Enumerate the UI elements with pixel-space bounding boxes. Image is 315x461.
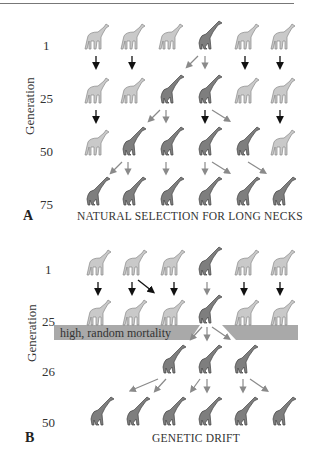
mortality-label: high, random mortality xyxy=(60,326,171,341)
gen-label-b-1: 1 xyxy=(45,262,52,278)
giraffe-short-neck-icon xyxy=(271,24,295,49)
panel-a-diagram xyxy=(0,0,315,210)
giraffe-long-neck-icon xyxy=(199,21,222,49)
axis-label-generation-b: Generation xyxy=(24,304,40,362)
gen-label-b-25: 25 xyxy=(42,314,55,330)
panel-label-b: B xyxy=(25,430,34,446)
giraffe-short-neck-icon xyxy=(235,24,259,49)
giraffe-short-neck-icon xyxy=(85,24,109,49)
caption-genetic-drift: GENETIC DRIFT xyxy=(152,432,240,444)
gen-label-b-50: 50 xyxy=(42,415,55,431)
gen-label-b-26: 26 xyxy=(42,364,55,380)
giraffe-short-neck-icon xyxy=(121,24,145,49)
mortality-band-right xyxy=(222,325,298,340)
giraffe-short-neck-icon xyxy=(159,24,183,49)
